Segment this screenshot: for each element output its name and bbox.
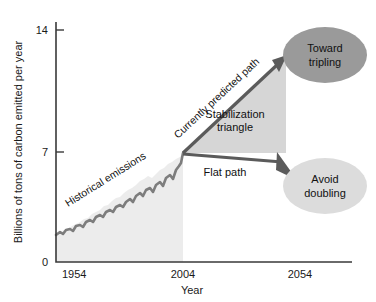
toward-tripling-bubble	[283, 27, 367, 83]
x-tick-label-2054: 2054	[288, 268, 312, 280]
flat-path-label: Flat path	[204, 166, 247, 178]
y-axis-title: Billions of tons of carbon emitted per y…	[12, 40, 24, 243]
chart-figure: 14 7 0 1954 2004 2054 Year Billions of t…	[0, 0, 376, 302]
y-tick-label-7: 7	[42, 146, 48, 158]
y-tick-label-0: 0	[42, 256, 48, 268]
flat-path-arrow	[183, 154, 282, 162]
x-tick-label-1954: 1954	[62, 268, 86, 280]
stabilization-triangle-label-line1: Stabilization	[205, 108, 264, 120]
toward-tripling-label-line1: Toward	[307, 42, 342, 54]
x-tick-label-2004: 2004	[171, 268, 195, 280]
x-axis-title: Year	[181, 284, 204, 296]
avoid-doubling-bubble	[283, 158, 367, 214]
y-tick-label-14: 14	[36, 24, 48, 36]
toward-tripling-label-line2: tripling	[309, 56, 341, 68]
avoid-doubling-label-line2: doubling	[304, 187, 346, 199]
stabilization-triangle-label-line2: triangle	[217, 121, 253, 133]
stabilization-wedge-chart: 14 7 0 1954 2004 2054 Year Billions of t…	[0, 0, 376, 302]
avoid-doubling-label-line1: Avoid	[311, 173, 338, 185]
